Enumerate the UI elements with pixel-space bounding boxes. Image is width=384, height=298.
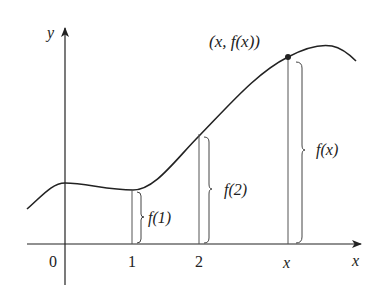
brace-f1 xyxy=(137,192,144,243)
height-label-f1: f(1) xyxy=(148,209,171,227)
function-curve xyxy=(27,45,356,209)
tick-label-1: 1 xyxy=(128,253,136,270)
height-label-fx: f(x) xyxy=(316,141,338,159)
brace-fx xyxy=(296,62,305,243)
tick-label-0: 0 xyxy=(49,253,57,270)
x-axis-label: x xyxy=(351,252,359,269)
function-graph: y x 0 1 2 x (x, f(x)) f(1) f(2) f(x) xyxy=(0,0,384,298)
height-label-f2: f(2) xyxy=(224,181,247,199)
brace-f2 xyxy=(204,137,212,243)
point-x-fx xyxy=(285,54,291,60)
point-label: (x, f(x)) xyxy=(209,32,260,51)
tick-label-x: x xyxy=(282,254,290,271)
y-axis-label: y xyxy=(45,24,55,42)
tick-label-2: 2 xyxy=(195,253,203,270)
